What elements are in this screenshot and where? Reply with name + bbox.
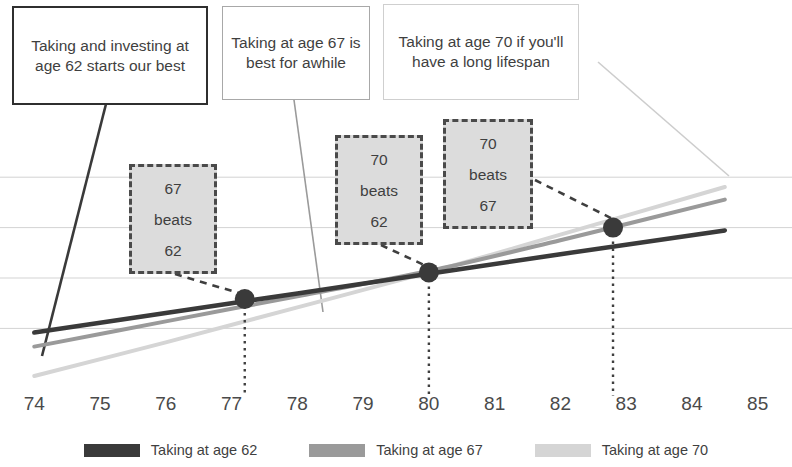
callout-text-age-70: Taking at age 70 if you'll have a long l… <box>384 32 578 72</box>
note-67-beats-62: 67 beats 62 <box>129 164 217 274</box>
x-tick-76: 76 <box>146 393 186 415</box>
x-tick-82: 82 <box>540 393 580 415</box>
note-70-beats-67: 70 beats 67 <box>443 119 533 229</box>
note-70-beats-62: 70 beats 62 <box>335 135 423 245</box>
note-line-2: beats <box>154 204 192 235</box>
note-line-2: beats <box>360 175 398 206</box>
legend-swatch-icon-1 <box>309 444 365 457</box>
note-line-3: 62 <box>370 206 387 237</box>
chart-legend: Taking at age 62Taking at age 67Taking a… <box>0 437 792 463</box>
x-tick-74: 74 <box>14 393 54 415</box>
x-tick-78: 78 <box>277 393 317 415</box>
callout-box-age-70: Taking at age 70 if you'll have a long l… <box>383 4 579 100</box>
legend-item-0[interactable]: Taking at age 62 <box>84 442 257 458</box>
note-line-1: 70 <box>479 128 496 159</box>
x-tick-85: 85 <box>738 393 778 415</box>
note-line-1: 70 <box>370 144 387 175</box>
x-tick-77: 77 <box>212 393 252 415</box>
note-line-2: beats <box>469 159 507 190</box>
x-tick-83: 83 <box>606 393 646 415</box>
callout-box-age-62: Taking and investing at age 62 starts ou… <box>12 6 208 105</box>
legend-label-1: Taking at age 67 <box>376 442 482 458</box>
note-line-3: 67 <box>479 190 496 221</box>
legend-swatch-icon-2 <box>535 444 591 457</box>
x-tick-81: 81 <box>475 393 515 415</box>
x-tick-80: 80 <box>409 393 449 415</box>
callout-text-age-67: Taking at age 67 is best for awhile <box>223 33 369 73</box>
callout-text-age-62: Taking and investing at age 62 starts ou… <box>14 36 206 76</box>
note-line-1: 67 <box>164 173 181 204</box>
x-axis-tick-labels: 747576777879808182838485 <box>0 393 792 423</box>
note-line-3: 62 <box>164 235 181 266</box>
callout-box-age-67: Taking at age 67 is best for awhile <box>222 6 370 100</box>
x-tick-75: 75 <box>80 393 120 415</box>
legend-swatch-icon-0 <box>84 444 140 457</box>
legend-label-2: Taking at age 70 <box>602 442 708 458</box>
chart-canvas: Taking and investing at age 62 starts ou… <box>0 0 792 467</box>
legend-item-1[interactable]: Taking at age 67 <box>309 442 482 458</box>
x-tick-84: 84 <box>672 393 712 415</box>
legend-item-2[interactable]: Taking at age 70 <box>535 442 708 458</box>
legend-label-0: Taking at age 62 <box>151 442 257 458</box>
x-tick-79: 79 <box>343 393 383 415</box>
